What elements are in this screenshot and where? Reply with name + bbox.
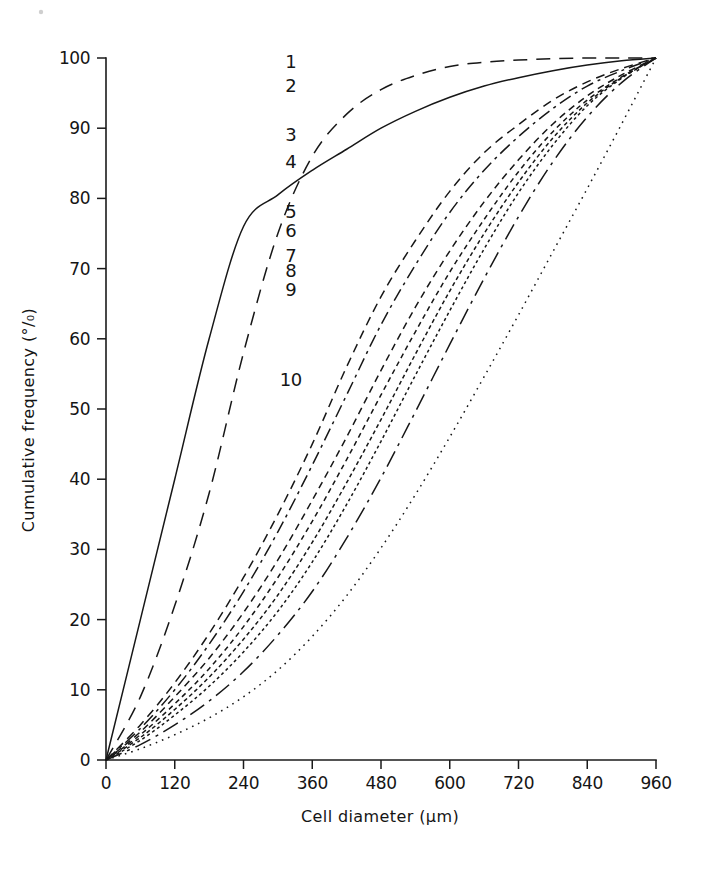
x-tick-label: 480 bbox=[366, 773, 397, 793]
curve-label-10: 10 bbox=[280, 369, 302, 390]
y-tick-label: 80 bbox=[69, 188, 90, 208]
x-tick-label: 360 bbox=[297, 773, 328, 793]
axis-tick-labels: 0102030405060708090100012024036048060072… bbox=[59, 48, 671, 793]
x-tick-label: 960 bbox=[641, 773, 672, 793]
axes bbox=[106, 58, 656, 760]
curve-label-4: 4 bbox=[285, 151, 296, 172]
curve-label-6: 6 bbox=[285, 220, 296, 241]
curve-8 bbox=[106, 58, 656, 760]
cumulative-frequency-chart: 0102030405060708090100012024036048060072… bbox=[0, 0, 701, 869]
curve-label-2: 2 bbox=[285, 75, 296, 96]
y-tick-label: 40 bbox=[69, 469, 90, 489]
curve-5 bbox=[106, 58, 656, 760]
y-tick-label: 0 bbox=[80, 750, 90, 770]
chart-speck bbox=[39, 10, 43, 14]
curve-7 bbox=[106, 58, 656, 760]
curve-9 bbox=[106, 58, 656, 760]
curve-label-9: 9 bbox=[285, 279, 296, 300]
y-tick-label: 70 bbox=[69, 259, 90, 279]
curve-2 bbox=[106, 58, 656, 760]
curve-3 bbox=[106, 58, 656, 760]
y-tick-label: 20 bbox=[69, 610, 90, 630]
x-tick-label: 0 bbox=[101, 773, 111, 793]
curve-number-labels: 12345678910 bbox=[280, 51, 302, 390]
curve-label-1: 1 bbox=[285, 51, 296, 72]
figure-container: 0102030405060708090100012024036048060072… bbox=[0, 0, 701, 869]
x-tick-label: 120 bbox=[159, 773, 190, 793]
curve-10 bbox=[106, 58, 656, 760]
x-tick-label: 600 bbox=[434, 773, 465, 793]
curve-1 bbox=[106, 58, 656, 760]
y-axis-title: Cumulative frequency (°/₀) bbox=[19, 308, 38, 532]
x-tick-label: 240 bbox=[228, 773, 259, 793]
y-tick-label: 50 bbox=[69, 399, 90, 419]
y-tick-label: 90 bbox=[69, 118, 90, 138]
y-tick-label: 10 bbox=[69, 680, 90, 700]
x-tick-label: 720 bbox=[503, 773, 534, 793]
y-tick-label: 30 bbox=[69, 539, 90, 559]
curve-4 bbox=[106, 58, 656, 760]
y-tick-label: 60 bbox=[69, 329, 90, 349]
data-curves bbox=[106, 58, 656, 760]
curve-6 bbox=[106, 58, 656, 760]
x-axis-title: Cell diameter (µm) bbox=[301, 807, 459, 826]
curve-label-3: 3 bbox=[285, 124, 296, 145]
axis-ticks bbox=[97, 58, 656, 769]
y-tick-label: 100 bbox=[59, 48, 90, 68]
x-tick-label: 840 bbox=[572, 773, 603, 793]
